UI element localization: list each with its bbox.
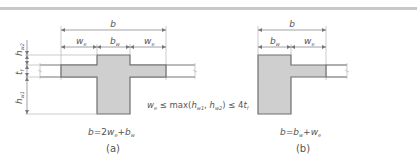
panel-a: b we bw we [14, 19, 197, 154]
label-hw1: hw1 [14, 91, 25, 104]
formula-a: b=2we+bw [88, 127, 136, 138]
caption-b: (b) [296, 143, 310, 154]
formula-b: b=bw+we [280, 127, 321, 138]
label-bw: bw [110, 36, 121, 47]
label-tf: tf [14, 68, 25, 75]
l-beam-section [258, 55, 326, 114]
effective-flange-width-diagram: b we bw we [0, 0, 417, 164]
label-b-b: b [289, 19, 295, 29]
label-we-b: we [304, 36, 314, 47]
label-we-right: we [144, 36, 154, 47]
label-hw2: hw2 [14, 43, 25, 56]
panel-b: b bw we b=bw+we (b) [258, 19, 349, 154]
caption-a: (a) [106, 143, 120, 154]
label-we-left: we [76, 36, 86, 47]
top-band [0, 7, 417, 10]
label-b: b [110, 19, 116, 29]
constraint-formula: we ≤ max(hw1, hw2) ≤ 4tf [147, 100, 250, 111]
label-bw-b: bw [270, 36, 281, 47]
